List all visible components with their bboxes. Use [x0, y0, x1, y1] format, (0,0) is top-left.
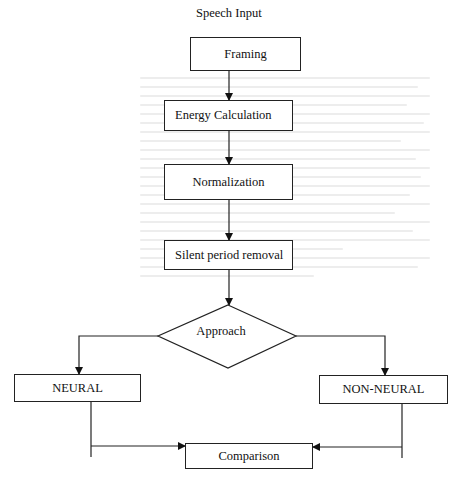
- energy-calculation-node: Energy Calculation: [164, 100, 293, 131]
- comparison-node: Comparison: [185, 443, 313, 469]
- normalization-node: Normalization: [164, 164, 293, 200]
- silent-period-removal-node: Silent period removal: [164, 240, 293, 270]
- energy-calculation-label: Energy Calculation: [175, 108, 272, 123]
- framing-node: Framing: [190, 37, 301, 71]
- arrow-approach-to-neural: [79, 336, 158, 374]
- framing-label: Framing: [224, 47, 266, 62]
- approach-decision-label: Approach: [196, 324, 245, 339]
- arrow-approach-to-non-neural: [296, 336, 385, 375]
- comparison-label: Comparison: [218, 449, 279, 464]
- speech-input-label: Speech Input: [196, 6, 262, 21]
- neural-label: NEURAL: [52, 381, 103, 396]
- silent-period-removal-label: Silent period removal: [175, 248, 283, 263]
- normalization-label: Normalization: [192, 175, 264, 190]
- non-neural-label: NON-NEURAL: [343, 382, 425, 397]
- non-neural-node: NON-NEURAL: [319, 375, 448, 404]
- neural-node: NEURAL: [14, 374, 141, 402]
